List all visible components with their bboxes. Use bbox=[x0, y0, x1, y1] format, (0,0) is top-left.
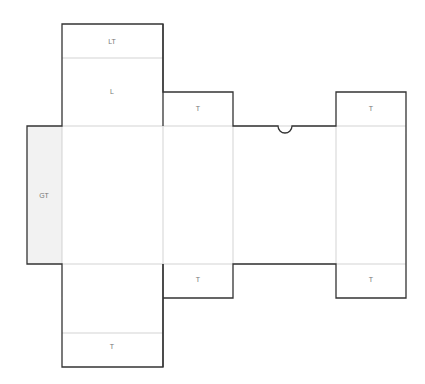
label-top-tuck-2: T bbox=[369, 105, 373, 112]
label-bottom-tuck-2: T bbox=[369, 276, 373, 283]
label-bottom-tuck-1: T bbox=[196, 276, 200, 283]
label-lid: L bbox=[110, 88, 114, 95]
label-top-tuck-1: T bbox=[196, 105, 200, 112]
dieline-diagram bbox=[0, 0, 425, 384]
label-lid-tuck: LT bbox=[108, 38, 116, 45]
label-bottom-flap: T bbox=[110, 343, 114, 350]
label-glue-tab: GT bbox=[39, 192, 49, 199]
fold-lines bbox=[62, 58, 406, 333]
cut-outline bbox=[27, 24, 406, 367]
